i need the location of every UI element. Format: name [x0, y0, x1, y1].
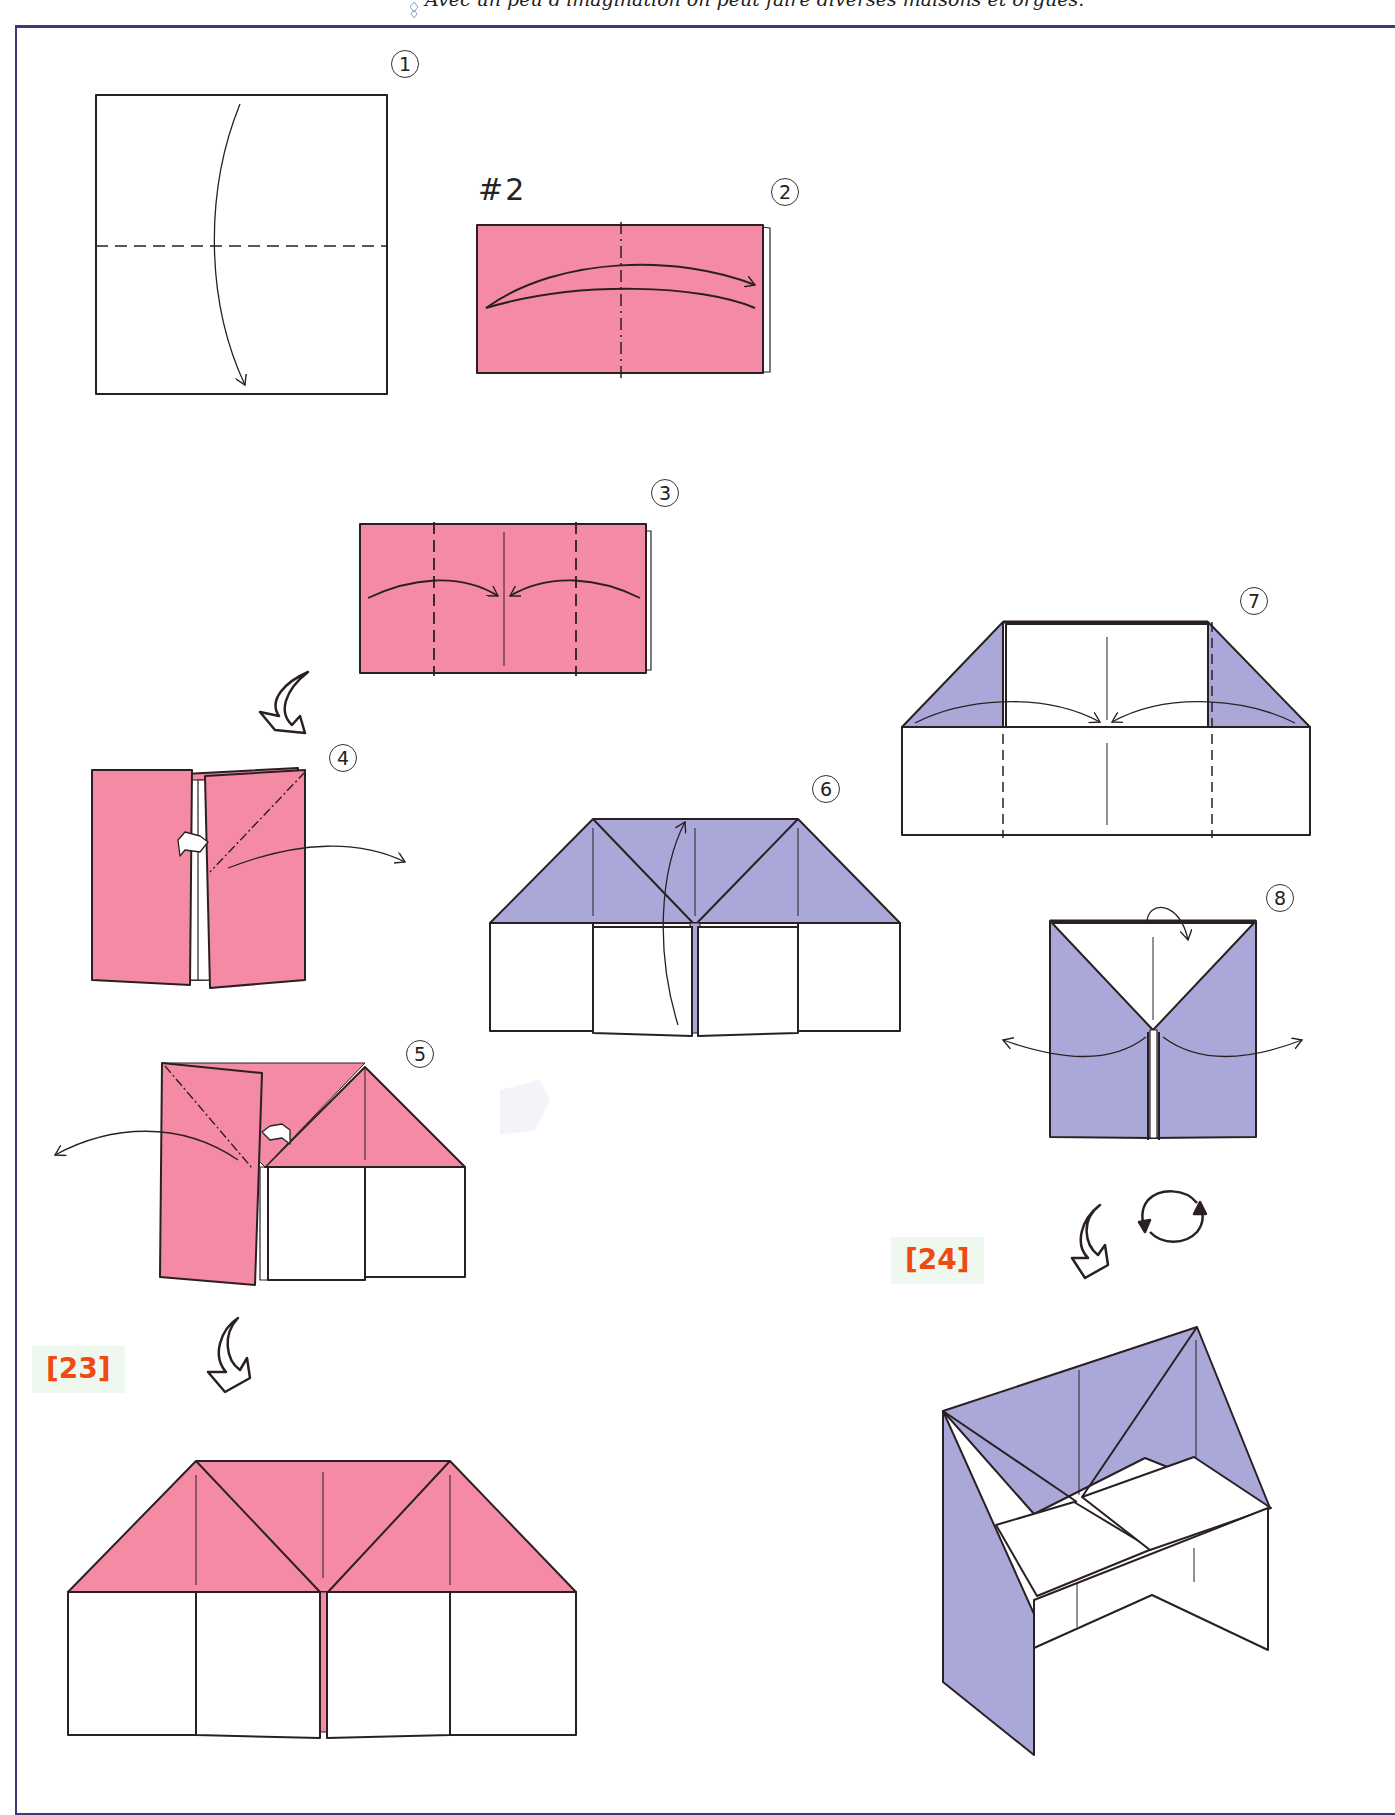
step-number-8: 8	[1266, 884, 1294, 912]
step-number-7: 7	[1240, 587, 1268, 615]
model-label: #2	[478, 172, 526, 207]
transition-arrow	[1072, 1205, 1108, 1278]
step-5-diagram	[55, 1063, 465, 1285]
step-7-diagram	[902, 622, 1310, 838]
turn-over-icon	[1139, 1191, 1206, 1241]
step-1-diagram	[96, 95, 387, 394]
step-number-3: 3	[651, 479, 679, 507]
step-8-diagram	[1003, 907, 1302, 1140]
step-number-5: 5	[406, 1040, 434, 1068]
step-number-2: 2	[771, 178, 799, 206]
transition-arrow	[208, 1318, 250, 1392]
transition-arrow	[260, 672, 308, 733]
result-label-23: [23]	[32, 1346, 125, 1393]
step-number-4: 4	[329, 744, 357, 772]
result-24-diagram	[943, 1327, 1271, 1755]
step-number-1: 1	[391, 50, 419, 78]
result-23-diagram	[68, 1461, 576, 1738]
step-number-6: 6	[812, 775, 840, 803]
step-4-diagram	[92, 768, 405, 988]
result-label-24: [24]	[891, 1237, 984, 1284]
step-6-diagram	[490, 819, 900, 1036]
step-2-diagram	[477, 222, 770, 378]
step-3-diagram	[360, 522, 651, 676]
